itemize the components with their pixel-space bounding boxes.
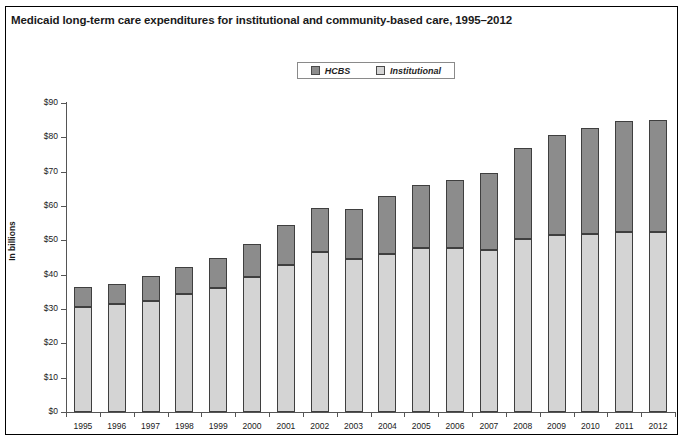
bar-segment-hcbs xyxy=(243,244,261,277)
bar-segment-institutional xyxy=(277,265,295,412)
bar-stack xyxy=(108,284,126,412)
x-tick-mark xyxy=(337,412,338,417)
bar-segment-institutional xyxy=(209,288,227,412)
bar-segment-institutional xyxy=(175,294,193,412)
bar-segment-hcbs xyxy=(412,185,430,249)
y-tick-label: $70 xyxy=(44,166,58,176)
bar-segment-hcbs xyxy=(108,284,126,304)
x-tick-mark xyxy=(574,412,575,417)
bar-segment-hcbs xyxy=(142,276,160,301)
bar-stack xyxy=(581,128,599,412)
bar-segment-hcbs xyxy=(345,209,363,259)
bar-stack xyxy=(480,173,498,412)
y-tick: $80 xyxy=(0,137,66,138)
x-tick-mark xyxy=(303,412,304,417)
x-tick-mark xyxy=(641,412,642,417)
bar-segment-hcbs xyxy=(649,120,667,232)
y-tick-label: $90 xyxy=(44,97,58,107)
legend-label-hcbs: HCBS xyxy=(325,66,351,76)
bar-segment-institutional xyxy=(446,248,464,412)
bar-segment-hcbs xyxy=(209,258,227,288)
bar-stack xyxy=(615,121,633,412)
bar-segment-institutional xyxy=(514,239,532,412)
bar-segment-hcbs xyxy=(548,135,566,234)
legend-label-institutional: Institutional xyxy=(390,66,441,76)
x-tick-mark xyxy=(404,412,405,417)
x-tick-mark xyxy=(540,412,541,417)
bar-segment-institutional xyxy=(378,254,396,412)
bar-segment-institutional xyxy=(412,248,430,412)
bar-stack xyxy=(74,287,92,412)
y-tick: $20 xyxy=(0,343,66,344)
legend-item-institutional: Institutional xyxy=(376,66,441,76)
bar-segment-institutional xyxy=(243,277,261,412)
bar-stack xyxy=(243,244,261,412)
legend-swatch-institutional xyxy=(376,66,385,75)
y-tick: $10 xyxy=(0,378,66,379)
bar-stack xyxy=(548,135,566,412)
bar-stack xyxy=(277,225,295,412)
bar-segment-institutional xyxy=(615,232,633,412)
bar-segment-institutional xyxy=(548,235,566,413)
x-tick-mark xyxy=(472,412,473,417)
x-tick-mark xyxy=(134,412,135,417)
bar-segment-hcbs xyxy=(446,180,464,248)
bar-stack xyxy=(311,208,329,412)
y-tick-label: $10 xyxy=(44,372,58,382)
bar-stack xyxy=(209,258,227,413)
bar-segment-institutional xyxy=(311,252,329,412)
y-tick-label: $40 xyxy=(44,269,58,279)
y-tick: $50 xyxy=(0,240,66,241)
x-tick-mark xyxy=(438,412,439,417)
bar-stack xyxy=(446,180,464,412)
bar-segment-hcbs xyxy=(581,128,599,234)
bar-segment-hcbs xyxy=(277,225,295,265)
bar-segment-hcbs xyxy=(175,267,193,294)
bar-stack xyxy=(175,267,193,412)
x-tick-mark xyxy=(675,412,676,417)
y-tick: $0 xyxy=(0,412,66,413)
bar-segment-institutional xyxy=(480,250,498,412)
chart-page: Medicaid long-term care expenditures for… xyxy=(0,0,684,441)
x-tick-mark xyxy=(66,412,67,417)
bar-stack xyxy=(345,209,363,412)
x-tick-mark xyxy=(201,412,202,417)
x-tick-mark xyxy=(269,412,270,417)
y-tick-label: $60 xyxy=(44,200,58,210)
bar-segment-institutional xyxy=(345,259,363,412)
y-tick-label: $20 xyxy=(44,337,58,347)
x-tick-mark xyxy=(100,412,101,417)
y-tick: $70 xyxy=(0,172,66,173)
y-tick: $40 xyxy=(0,275,66,276)
bar-segment-hcbs xyxy=(74,287,92,307)
bar-segment-institutional xyxy=(142,301,160,412)
x-tick-mark xyxy=(607,412,608,417)
page-title: Medicaid long-term care expenditures for… xyxy=(11,14,512,26)
bar-segment-institutional xyxy=(581,234,599,412)
y-tick: $60 xyxy=(0,206,66,207)
y-tick-label: $0 xyxy=(49,406,58,416)
bar-segment-hcbs xyxy=(311,208,329,253)
x-tick-mark xyxy=(235,412,236,417)
y-tick-label: $50 xyxy=(44,234,58,244)
bar-segment-hcbs xyxy=(615,121,633,233)
legend-item-hcbs: HCBS xyxy=(311,66,351,76)
bar-stack xyxy=(378,196,396,412)
legend-swatch-hcbs xyxy=(311,66,320,75)
bar-stack xyxy=(649,120,667,412)
x-tick-mark xyxy=(371,412,372,417)
y-tick-label: $80 xyxy=(44,131,58,141)
bar-stack xyxy=(142,276,160,412)
y-tick-label: $30 xyxy=(44,303,58,313)
y-tick: $90 xyxy=(0,103,66,104)
bar-segment-hcbs xyxy=(514,148,532,239)
bar-stack xyxy=(514,148,532,412)
bar-stack xyxy=(412,185,430,412)
plot-area xyxy=(66,103,674,412)
bar-segment-hcbs xyxy=(480,173,498,250)
bar-segment-institutional xyxy=(649,232,667,412)
x-tick-mark xyxy=(506,412,507,417)
x-tick-mark xyxy=(168,412,169,417)
chart-legend: HCBS Institutional xyxy=(297,62,455,79)
y-tick: $30 xyxy=(0,309,66,310)
